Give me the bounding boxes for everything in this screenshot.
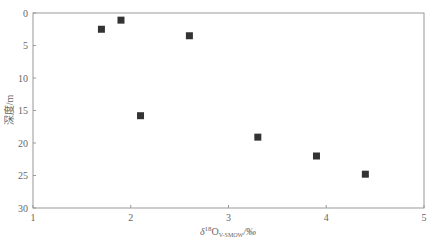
y-tick-label: 0	[23, 8, 28, 19]
data-point-marker	[362, 171, 369, 178]
y-axis-title: 深度/m	[3, 95, 15, 126]
data-point-marker	[254, 134, 261, 141]
data-point-marker	[137, 112, 144, 119]
x-tick-label: 5	[422, 212, 427, 223]
x-tick-label: 3	[226, 212, 231, 223]
data-point-marker	[98, 26, 105, 33]
y-tick-label: 20	[18, 138, 28, 149]
scatter-chart: 051015202530 12345 深度/m δ18OV-SMOW/‰	[0, 0, 434, 242]
x-tick-label: 4	[324, 212, 329, 223]
x-tick-label: 2	[128, 212, 133, 223]
x-axis-title: δ18OV-SMOW/‰	[200, 225, 256, 238]
data-points	[98, 17, 369, 178]
y-tick-label: 15	[18, 105, 28, 116]
data-point-marker	[117, 17, 124, 24]
y-tick-label: 30	[18, 203, 28, 214]
plot-frame	[33, 13, 424, 208]
y-tick-label: 5	[23, 40, 28, 51]
y-tick-label: 25	[18, 170, 28, 181]
data-point-marker	[313, 153, 320, 160]
data-point-marker	[186, 32, 193, 39]
y-tick-label: 10	[18, 73, 28, 84]
x-tick-label: 1	[31, 212, 36, 223]
